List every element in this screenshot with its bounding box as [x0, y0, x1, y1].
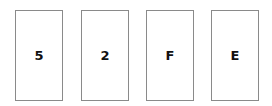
card-3[interactable]: F: [146, 10, 194, 101]
card-face: F: [166, 48, 175, 63]
card-1[interactable]: 5: [15, 10, 63, 101]
card-4[interactable]: E: [211, 10, 259, 101]
card-2[interactable]: 2: [81, 10, 129, 101]
card-face: E: [231, 48, 240, 63]
card-face: 2: [100, 48, 109, 63]
card-face: 5: [34, 48, 43, 63]
